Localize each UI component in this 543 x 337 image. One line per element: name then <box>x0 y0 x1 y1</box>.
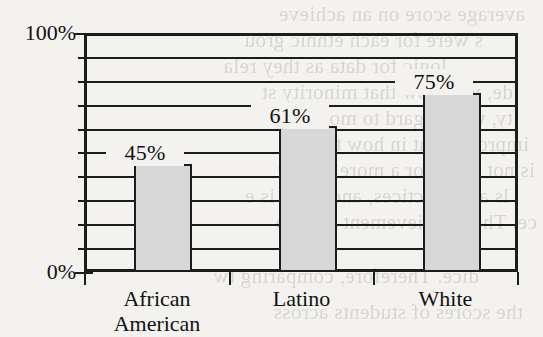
x-axis-label-african-american: African American <box>84 286 230 336</box>
bar-white[interactable] <box>423 93 481 272</box>
bar-value-african-american: 45% <box>106 140 184 166</box>
x-axis-label-line1: White <box>419 286 473 311</box>
bar-african-american[interactable] <box>134 164 192 272</box>
bar-value-white: 75% <box>395 69 473 95</box>
bar-latino[interactable] <box>279 126 337 272</box>
gridline-90 <box>87 57 515 59</box>
x-tick-2 <box>373 272 375 285</box>
x-axis-label-white: White <box>373 286 518 311</box>
x-tick-0 <box>84 272 86 285</box>
x-tick-3 <box>517 272 519 285</box>
x-axis-label-line2: American <box>114 311 201 336</box>
x-tick-1 <box>229 272 231 285</box>
y-axis-label-max: 100% <box>14 20 76 46</box>
x-axis-label-line1: African <box>123 286 190 311</box>
x-axis-label-latino: Latino <box>229 286 374 311</box>
bleed-line: average score on an achieve <box>279 2 525 27</box>
x-axis-label-line1: Latino <box>273 286 330 311</box>
bar-value-latino: 61% <box>251 103 329 129</box>
chart-page: average score on an achieve s were for e… <box>0 0 543 337</box>
y-axis-label-min: 0% <box>14 259 76 285</box>
